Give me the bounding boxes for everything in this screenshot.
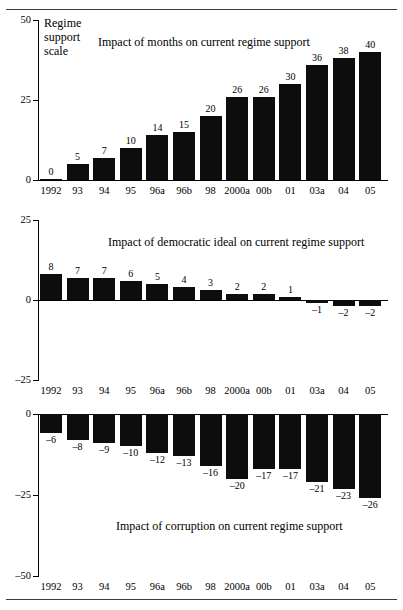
bar xyxy=(306,300,328,303)
y-axis-tick-label: 50 xyxy=(21,15,32,26)
x-axis-tick-label: 05 xyxy=(353,386,387,397)
bar-value-label: –10 xyxy=(120,448,142,458)
bar xyxy=(146,414,168,453)
bar-value-label: 5 xyxy=(67,152,89,162)
bar-value-label: –23 xyxy=(333,491,355,501)
y-axis-tick-label: 25 xyxy=(21,215,32,226)
bar-value-label: 26 xyxy=(226,85,248,95)
bar xyxy=(67,164,89,180)
bar xyxy=(200,290,222,300)
bar-value-label: 20 xyxy=(200,104,222,114)
y-axis-tick-label: –25 xyxy=(15,490,31,501)
bar-item: 40 xyxy=(359,14,381,210)
y-axis-tick-label: –25 xyxy=(15,375,31,386)
bar xyxy=(146,284,168,300)
bar-value-label: 10 xyxy=(120,136,142,146)
bar-value-label: 30 xyxy=(279,72,301,82)
plot-area-democratic-ideal: –250258776543221–1–2–2199293949596a96b98… xyxy=(38,206,388,392)
y-axis-tick-label: –50 xyxy=(15,571,31,582)
bar xyxy=(200,116,222,180)
bar-value-label: –2 xyxy=(333,308,355,318)
bar-value-label: 7 xyxy=(93,266,115,276)
bar-value-label: 26 xyxy=(253,85,275,95)
bar-value-label: –21 xyxy=(306,484,328,494)
bar-value-label: –26 xyxy=(359,500,381,510)
bar-value-label: –16 xyxy=(200,468,222,478)
bar xyxy=(173,287,195,300)
bar xyxy=(333,58,355,180)
bar xyxy=(93,278,115,300)
bar xyxy=(226,97,248,180)
bar-value-label: –20 xyxy=(226,481,248,491)
x-axis-tick-label: 05 xyxy=(353,582,387,593)
bar-value-label: –12 xyxy=(146,455,168,465)
bar-item: –10 xyxy=(120,404,142,606)
bar-item: –23 xyxy=(333,404,355,606)
y-axis-caption-line-3: scale xyxy=(44,44,106,58)
bar xyxy=(333,300,355,306)
bar xyxy=(40,414,62,433)
bar-value-label: 5 xyxy=(146,272,168,282)
bar-item: –8 xyxy=(67,404,89,606)
bar-value-label: 3 xyxy=(200,278,222,288)
bar xyxy=(67,278,89,300)
bar-value-label: –13 xyxy=(173,458,195,468)
bar-value-label: 14 xyxy=(146,123,168,133)
bar xyxy=(93,158,115,180)
bar xyxy=(40,179,62,181)
bar xyxy=(93,414,115,443)
bar-value-label: –2 xyxy=(359,308,381,318)
bar xyxy=(120,414,142,446)
plot-area-corruption: –50–250–6–8–9–10–12–13–16–20–17–17–21–23… xyxy=(38,404,388,596)
bar xyxy=(226,294,248,300)
bar-value-label: 2 xyxy=(253,282,275,292)
bar xyxy=(279,84,301,180)
bar xyxy=(200,414,222,466)
bar-item: –16 xyxy=(200,404,222,606)
bar-value-label: 4 xyxy=(173,275,195,285)
bar-value-label: 7 xyxy=(93,146,115,156)
bar-item: –17 xyxy=(279,404,301,606)
bar xyxy=(253,294,275,300)
bar xyxy=(359,300,381,306)
bar-series: –6–8–9–10–12–13–16–20–17–17–21–23–26 xyxy=(38,404,388,596)
bar-value-label: 8 xyxy=(40,262,62,272)
bar-value-label: 40 xyxy=(359,40,381,50)
bar-item: –26 xyxy=(359,404,381,606)
bar-value-label: 2 xyxy=(226,282,248,292)
bar-item: 8 xyxy=(40,206,62,410)
bar-item: –12 xyxy=(146,404,168,606)
bar xyxy=(306,414,328,482)
bar xyxy=(359,414,381,498)
bar-value-label: –1 xyxy=(306,305,328,315)
y-axis-caption-line-2: support xyxy=(44,30,106,44)
bar-item: –13 xyxy=(173,404,195,606)
bar-value-label: –9 xyxy=(93,445,115,455)
chart-panel-corruption: –50–250–6–8–9–10–12–13–16–20–17–17–21–23… xyxy=(0,404,403,596)
bar xyxy=(40,274,62,300)
bar-value-label: 15 xyxy=(173,120,195,130)
bar xyxy=(173,132,195,180)
chart-title: Impact of democratic ideal on current re… xyxy=(108,236,364,250)
bar xyxy=(146,135,168,180)
chart-title: Impact of months on current regime suppo… xyxy=(98,36,310,50)
bar-value-label: 0 xyxy=(40,167,62,177)
bar xyxy=(173,414,195,456)
y-axis-tick-label: 0 xyxy=(26,409,31,420)
bar xyxy=(253,97,275,180)
y-axis-caption: Regimesupportscale xyxy=(44,16,106,58)
bar xyxy=(279,297,301,300)
y-axis-tick-label: 0 xyxy=(26,175,31,186)
bar xyxy=(333,414,355,489)
bar-item: 7 xyxy=(67,206,89,410)
x-axis-tick-label: 05 xyxy=(353,186,387,197)
bar-value-label: –17 xyxy=(253,471,275,481)
y-axis-tick-label: 0 xyxy=(26,295,31,306)
bar-series: 8776543221–1–2–2 xyxy=(38,206,388,392)
top-divider-rule xyxy=(6,9,397,10)
bar-item: –6 xyxy=(40,404,62,606)
bar xyxy=(306,65,328,180)
bar-value-label: –8 xyxy=(67,442,89,452)
bar-value-label: 6 xyxy=(120,269,142,279)
bar-item: –17 xyxy=(253,404,275,606)
